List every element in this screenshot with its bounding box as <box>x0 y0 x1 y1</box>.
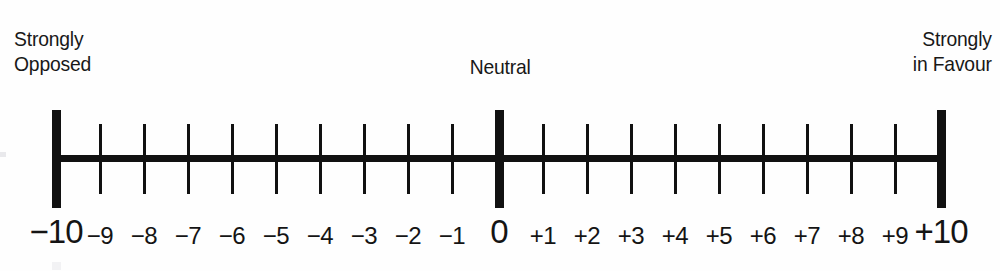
scale-tick-minus7[interactable] <box>187 124 190 194</box>
scale-number-minus10[interactable]: −10 <box>30 217 83 247</box>
scale-tick-plus8[interactable] <box>850 124 853 194</box>
scale-tick-minus6[interactable] <box>231 124 234 194</box>
scale-tick-plus1[interactable] <box>542 124 545 194</box>
scale-number-plus1[interactable]: +1 <box>530 221 556 251</box>
scan-artifact <box>52 262 61 270</box>
scale-tick-plus2[interactable] <box>586 124 589 194</box>
scale-number-minus4[interactable]: −4 <box>307 221 333 251</box>
scale-number-plus4[interactable]: +4 <box>662 221 688 251</box>
scale-number-row: −10−9−8−7−6−5−4−3−2−10+1+2+3+4+5+6+7+8+9… <box>0 215 1000 271</box>
scan-artifact <box>0 152 6 157</box>
scale-tick-plus6[interactable] <box>762 124 765 194</box>
scale-number-plus6[interactable]: +6 <box>750 221 776 251</box>
scale-tick-minus8[interactable] <box>143 124 146 194</box>
scale-number-minus3[interactable]: −3 <box>351 221 377 251</box>
scale-number-minus6[interactable]: −6 <box>219 221 245 251</box>
scale-number-0[interactable]: 0 <box>490 217 507 247</box>
scale-track[interactable] <box>0 0 1000 215</box>
scale-tick-plus9[interactable] <box>894 124 897 194</box>
scale-tick-minus9[interactable] <box>99 124 102 194</box>
scale-tick-0[interactable] <box>495 110 504 208</box>
scale-tick-minus4[interactable] <box>319 124 322 194</box>
scale-number-plus2[interactable]: +2 <box>574 221 600 251</box>
scale-number-minus9[interactable]: −9 <box>87 221 113 251</box>
scale-number-plus9[interactable]: +9 <box>882 221 908 251</box>
scale-tick-minus5[interactable] <box>275 124 278 194</box>
scale-tick-plus10[interactable] <box>937 110 946 208</box>
scale-number-plus10[interactable]: +10 <box>915 217 968 247</box>
scale-number-plus3[interactable]: +3 <box>618 221 644 251</box>
scale-tick-minus2[interactable] <box>407 124 410 194</box>
scale-tick-plus7[interactable] <box>806 124 809 194</box>
scale-number-minus1[interactable]: −1 <box>439 221 465 251</box>
scale-tick-plus5[interactable] <box>718 124 721 194</box>
scale-number-minus2[interactable]: −2 <box>395 221 421 251</box>
scale-number-minus5[interactable]: −5 <box>263 221 289 251</box>
scale-number-plus8[interactable]: +8 <box>838 221 864 251</box>
scale-number-minus7[interactable]: −7 <box>175 221 201 251</box>
scale-tick-plus4[interactable] <box>674 124 677 194</box>
scale-number-plus5[interactable]: +5 <box>706 221 732 251</box>
rating-scale-figure: Strongly Opposed Neutral Strongly in Fav… <box>0 0 1000 271</box>
scale-tick-minus3[interactable] <box>363 124 366 194</box>
scale-tick-minus10[interactable] <box>52 110 61 208</box>
scale-tick-plus3[interactable] <box>630 124 633 194</box>
scale-number-plus7[interactable]: +7 <box>794 221 820 251</box>
scale-number-minus8[interactable]: −8 <box>131 221 157 251</box>
scale-tick-minus1[interactable] <box>451 124 454 194</box>
